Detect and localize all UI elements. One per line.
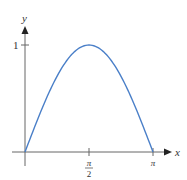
sine-curve bbox=[25, 45, 153, 152]
y-tick-label-1: 1 bbox=[13, 39, 19, 51]
x-axis-arrow-icon bbox=[164, 149, 172, 156]
y-axis-arrow-icon bbox=[22, 26, 29, 34]
x-tick-label-pi-den: 2 bbox=[87, 169, 92, 179]
x-tick-label-pi-num: π bbox=[87, 158, 92, 168]
y-axis-label: y bbox=[21, 12, 27, 24]
x-axis-label: x bbox=[174, 146, 180, 158]
sine-chart: y 1 x π 2 π bbox=[0, 0, 187, 180]
x-tick-label-pi: π bbox=[151, 158, 156, 168]
